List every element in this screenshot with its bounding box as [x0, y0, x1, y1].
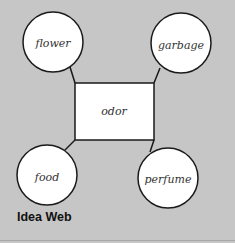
- edge-odor-flower: [70, 67, 75, 83]
- idea-web-diagram: odor flower garbage food perfume Idea We…: [0, 0, 235, 243]
- node-label-food: food: [35, 171, 59, 184]
- edge-odor-perfume: [150, 140, 154, 152]
- bottom-divider: [0, 240, 235, 241]
- diagram-caption: Idea Web: [17, 210, 72, 224]
- center-label: odor: [101, 105, 127, 118]
- edge-odor-food: [64, 140, 75, 151]
- node-label-perfume: perfume: [145, 173, 192, 186]
- node-label-garbage: garbage: [158, 39, 204, 52]
- edge-odor-garbage: [154, 68, 160, 83]
- node-label-flower: flower: [35, 37, 70, 50]
